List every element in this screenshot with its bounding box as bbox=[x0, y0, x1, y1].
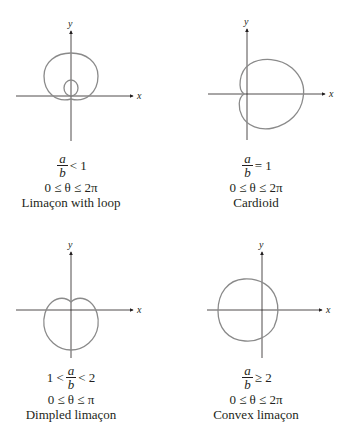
theta-range: 0 ≤ θ ≤ π bbox=[0, 392, 151, 407]
numerator: a bbox=[242, 152, 253, 166]
fraction-a-over-b: a b bbox=[242, 152, 253, 179]
ratio-condition: a b = 1 bbox=[176, 150, 336, 180]
theta-range: 0 ≤ θ ≤ 2π bbox=[176, 392, 336, 407]
panel-dimpled-limacon-plot: x y bbox=[16, 239, 142, 358]
caption-limacon-with-loop: a b < 1 0 ≤ θ ≤ 2π Limaçon with loop bbox=[0, 150, 151, 210]
denominator: b bbox=[68, 378, 75, 391]
curve-name: Cardioid bbox=[176, 195, 336, 210]
ratio-right: = 1 bbox=[255, 158, 272, 173]
numerator: a bbox=[66, 364, 77, 378]
ratio-condition: a b ≥ 2 bbox=[176, 362, 336, 392]
curve-name: Limaçon with loop bbox=[0, 195, 151, 210]
theta-range: 0 ≤ θ ≤ 2π bbox=[176, 180, 336, 195]
panel-limacon-with-loop-plot: x y bbox=[16, 18, 142, 141]
denominator: b bbox=[59, 166, 66, 179]
x-axis-label: x bbox=[328, 88, 334, 99]
denominator: b bbox=[244, 378, 251, 391]
fraction-a-over-b: a b bbox=[242, 364, 253, 391]
y-axis-label: y bbox=[258, 239, 264, 250]
ratio-condition: 1 < a b < 2 bbox=[0, 362, 151, 392]
caption-convex-limacon: a b ≥ 2 0 ≤ θ ≤ 2π Convex limaçon bbox=[176, 362, 336, 422]
curve-name: Dimpled limaçon bbox=[0, 407, 151, 422]
y-axis-label: y bbox=[67, 18, 73, 29]
ratio-right: < 1 bbox=[70, 158, 87, 173]
denominator: b bbox=[244, 166, 251, 179]
numerator: a bbox=[57, 152, 68, 166]
caption-cardioid: a b = 1 0 ≤ θ ≤ 2π Cardioid bbox=[176, 150, 336, 210]
theta-range: 0 ≤ θ ≤ 2π bbox=[0, 180, 151, 195]
ratio-right: ≥ 2 bbox=[255, 370, 272, 385]
panel-cardioid-plot: x y bbox=[208, 16, 334, 140]
ratio-left: 1 < bbox=[47, 370, 64, 385]
x-axis-label: x bbox=[325, 304, 331, 315]
x-axis-label: x bbox=[136, 304, 142, 315]
numerator: a bbox=[242, 364, 253, 378]
fraction-a-over-b: a b bbox=[66, 364, 77, 391]
curve-name: Convex limaçon bbox=[176, 407, 336, 422]
x-axis-label: x bbox=[136, 90, 142, 101]
ratio-right: < 2 bbox=[78, 370, 95, 385]
ratio-condition: a b < 1 bbox=[0, 150, 151, 180]
panel-convex-limacon-plot: x y bbox=[207, 239, 331, 358]
y-axis-label: y bbox=[67, 239, 73, 250]
y-axis-label: y bbox=[243, 16, 249, 27]
caption-dimpled-limacon: 1 < a b < 2 0 ≤ θ ≤ π Dimpled limaçon bbox=[0, 362, 151, 422]
fraction-a-over-b: a b bbox=[57, 152, 68, 179]
